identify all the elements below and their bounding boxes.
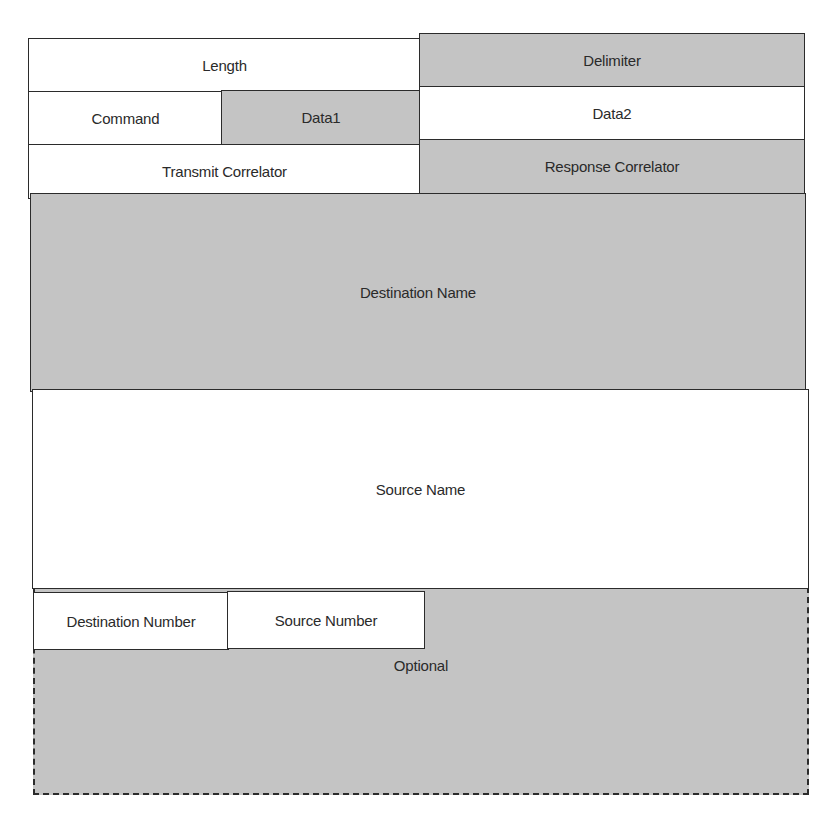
- destination-name-field: Destination Name: [30, 193, 806, 392]
- source-number-label: Source Number: [275, 612, 377, 629]
- source-name-label: Source Name: [376, 481, 466, 498]
- destination-name-label: Destination Name: [360, 284, 476, 301]
- destination-number-label: Destination Number: [67, 613, 196, 630]
- data2-field: Data2: [419, 86, 805, 141]
- delimiter-label: Delimiter: [583, 52, 640, 69]
- transmit-correlator-label: Transmit Correlator: [162, 163, 287, 180]
- command-field: Command: [28, 91, 223, 146]
- delimiter-field: Delimiter: [419, 33, 805, 88]
- length-label: Length: [202, 57, 247, 74]
- transmit-correlator-field: Transmit Correlator: [28, 144, 421, 199]
- destination-number-field: Destination Number: [33, 592, 229, 650]
- data1-field: Data1: [221, 90, 421, 145]
- response-correlator-field: Response Correlator: [419, 139, 805, 194]
- length-field: Length: [28, 38, 421, 92]
- data1-label: Data1: [301, 109, 340, 126]
- response-correlator-label: Response Correlator: [545, 158, 680, 175]
- source-name-field: Source Name: [32, 389, 809, 589]
- source-number-field: Source Number: [227, 591, 425, 649]
- data2-label: Data2: [592, 105, 631, 122]
- command-label: Command: [92, 110, 160, 127]
